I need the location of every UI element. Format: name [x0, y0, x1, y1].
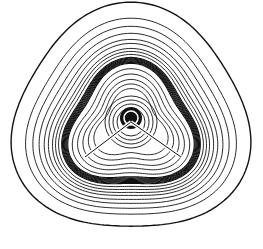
contour-plot: [0, 0, 263, 249]
bond-line-0: [85, 122, 131, 157]
contour-diagram: [0, 0, 263, 249]
